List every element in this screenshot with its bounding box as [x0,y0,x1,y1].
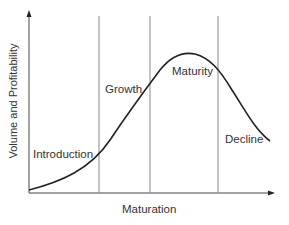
x-axis [29,191,275,196]
life-cycle-diagram [0,0,289,225]
stage-label-decline: Decline [225,133,263,145]
y-axis [27,10,32,193]
y-axis-arrow-icon [27,10,32,17]
stage-label-maturity: Maturity [172,65,213,77]
stage-label-growth: Growth [105,83,142,95]
stage-dividers [99,16,218,193]
stage-label-introduction: Introduction [33,148,93,160]
x-axis-label: Maturation [122,203,176,215]
y-axis-label: Volume and Profitability [7,41,19,161]
x-axis-arrow-icon [268,191,275,196]
